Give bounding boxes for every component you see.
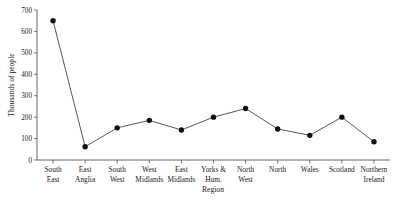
data-point <box>339 114 344 119</box>
x-tick-label: North <box>269 165 287 174</box>
x-axis-title: Region <box>202 185 224 194</box>
x-tick-label: Scotland <box>329 165 355 174</box>
x-tick-label: East <box>79 165 93 174</box>
x-tick-label: Yorks & <box>201 165 226 174</box>
data-point <box>179 127 184 132</box>
y-tick-label: 300 <box>21 92 32 100</box>
data-point <box>115 125 120 130</box>
x-tick-label: South <box>109 165 127 174</box>
y-axis: 0100200300400500600700 <box>21 7 37 165</box>
y-tick-label: 600 <box>21 28 32 36</box>
x-tick-label: West <box>110 175 126 184</box>
y-tick-label: 0 <box>28 157 32 165</box>
data-point <box>307 133 312 138</box>
data-point <box>147 118 152 123</box>
x-tick-label: North <box>237 165 255 174</box>
data-point <box>211 114 216 119</box>
series-line <box>53 21 374 147</box>
chart-canvas: 0100200300400500600700 SouthEastEastAngl… <box>0 0 395 203</box>
x-tick-label: Wales <box>301 165 319 174</box>
y-tick-label: 700 <box>21 7 32 15</box>
y-tick-label: 400 <box>21 71 32 79</box>
x-tick-label: West <box>142 165 158 174</box>
data-point <box>371 139 376 144</box>
x-tick-label: East <box>175 165 189 174</box>
data-point <box>50 18 55 23</box>
x-tick-label: Midlands <box>135 175 163 184</box>
x-axis: SouthEastEastAngliaSouthWestWestMidlands… <box>37 160 390 184</box>
line-chart: 0100200300400500600700 SouthEastEastAngl… <box>0 0 395 203</box>
data-point <box>243 106 248 111</box>
x-axis-tick-labels: SouthEastEastAngliaSouthWestWestMidlands… <box>44 165 387 184</box>
x-tick-label: East <box>47 175 61 184</box>
y-tick-label: 200 <box>21 114 32 122</box>
series-markers <box>50 18 376 149</box>
x-tick-label: South <box>44 165 62 174</box>
x-tick-label: Anglia <box>75 175 96 184</box>
y-tick-label: 500 <box>21 49 32 57</box>
x-tick-label: Hum. <box>205 175 222 184</box>
x-axis-ticks <box>53 160 374 164</box>
data-series <box>50 18 376 149</box>
y-axis-ticks: 0100200300400500600700 <box>21 7 37 165</box>
x-tick-label: Ireland <box>363 175 384 184</box>
x-tick-label: West <box>238 175 254 184</box>
x-tick-label: Northern <box>361 165 388 174</box>
x-tick-label: Midlands <box>167 175 195 184</box>
y-tick-label: 100 <box>21 135 32 143</box>
data-point <box>275 126 280 131</box>
y-axis-title: Thousands of people <box>7 53 16 117</box>
data-point <box>82 144 87 149</box>
